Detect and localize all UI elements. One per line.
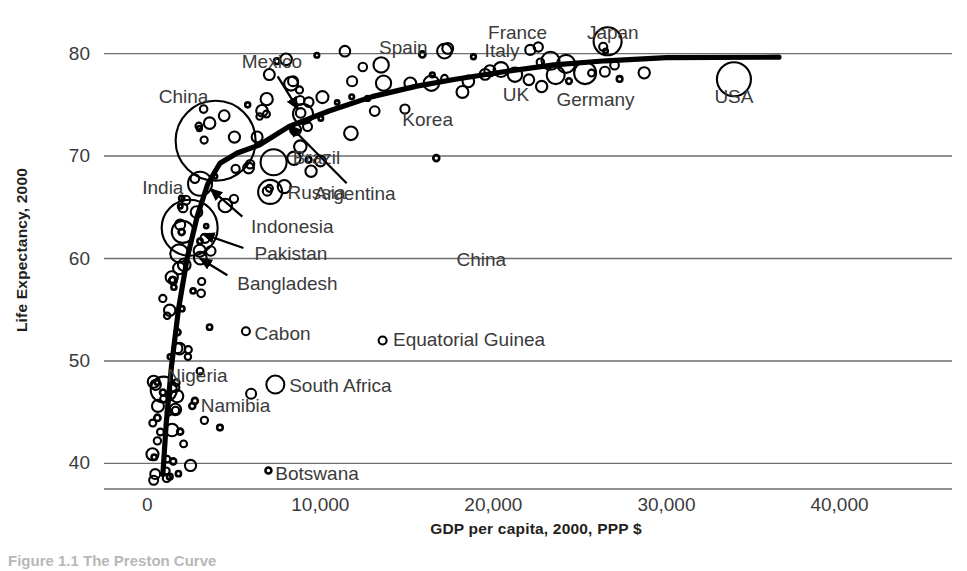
data-bubble	[219, 110, 230, 121]
data-bubble	[185, 354, 191, 360]
data-bubble	[349, 95, 354, 100]
data-bubble	[198, 278, 205, 285]
data-bubble	[176, 471, 181, 476]
data-bubble	[229, 131, 240, 142]
annotation-label: Germany	[556, 89, 635, 110]
data-bubble-cabon	[242, 327, 250, 335]
data-bubble	[340, 46, 351, 57]
data-bubble	[160, 390, 166, 396]
data-bubble	[335, 100, 339, 104]
data-bubble	[370, 106, 380, 116]
annotation-label: South Africa	[289, 375, 392, 396]
data-bubble	[150, 469, 160, 479]
data-bubble	[376, 76, 391, 91]
data-bubble	[252, 131, 263, 142]
data-bubble	[201, 136, 208, 143]
annotation-label: UK	[503, 84, 530, 105]
data-bubble	[185, 460, 196, 471]
data-bubble	[152, 455, 157, 460]
data-bubble	[159, 295, 166, 302]
data-bubble	[201, 417, 208, 424]
x-axis-title: GDP per capita, 2000, PPP $	[0, 520, 967, 538]
data-bubble	[191, 288, 196, 293]
annotation-label: Nigeria	[167, 365, 228, 386]
point-annotations: ChinaMexicoSpainFranceItalyJapanUKGerman…	[142, 22, 754, 484]
data-bubble	[315, 53, 320, 58]
data-bubble	[296, 108, 306, 118]
annotation-label: Cabon	[255, 323, 311, 344]
data-bubble	[232, 165, 240, 173]
data-bubble	[373, 57, 388, 72]
data-bubble	[154, 437, 161, 444]
data-bubble	[456, 86, 468, 98]
annotation-label: USA	[714, 86, 753, 107]
data-bubble	[197, 290, 205, 298]
data-bubble	[177, 429, 183, 435]
data-bubble	[344, 126, 358, 140]
annotation-label: Argentina	[314, 183, 396, 204]
annotation-label: Botswana	[275, 463, 359, 484]
data-bubble	[204, 224, 208, 228]
annotation-label: China	[456, 249, 506, 270]
data-bubble	[245, 102, 250, 107]
data-bubble	[566, 78, 572, 84]
annotation-label: Brazil	[293, 147, 341, 168]
data-bubble	[437, 44, 452, 59]
data-bubble-korea	[433, 155, 439, 161]
data-point-bubbles	[146, 27, 750, 484]
annotation-label: Pakistan	[255, 243, 328, 264]
annotation-label: Namibia	[201, 395, 271, 416]
x-tick-label: 10,000	[291, 494, 349, 516]
data-bubble	[296, 86, 303, 93]
data-bubble-equatorial-guinea	[379, 336, 387, 344]
data-bubble	[639, 67, 650, 78]
data-bubble	[471, 54, 476, 59]
annotation-label: Equatorial Guinea	[393, 329, 546, 350]
annotation-label: Japan	[587, 22, 639, 43]
data-bubble-brazil	[261, 149, 287, 175]
data-bubble	[316, 91, 328, 103]
data-bubble	[347, 76, 357, 86]
annotation-label: China	[159, 86, 209, 107]
data-bubble-botswana	[265, 468, 271, 474]
data-bubble	[178, 204, 182, 208]
data-bubble	[617, 76, 623, 82]
data-bubble	[170, 458, 176, 464]
annotation-label: Italy	[485, 40, 520, 61]
data-bubble	[588, 70, 595, 77]
x-axis-title-text: GDP per capita, 2000, PPP $	[430, 520, 642, 538]
data-bubble-south-africa	[266, 376, 284, 394]
preston-curve-figure: Life Expectancy, 2000 4050607080 ChinaMe…	[0, 0, 967, 571]
x-tick-label: 30,000	[637, 494, 695, 516]
data-bubble	[536, 81, 547, 92]
data-bubble	[149, 420, 156, 427]
annotation-arrow	[200, 259, 227, 276]
data-bubble	[600, 67, 610, 77]
data-bubble	[261, 93, 273, 105]
data-bubble	[359, 63, 368, 72]
annotation-label: Spain	[379, 37, 428, 58]
annotation-label: Mexico	[242, 51, 302, 72]
x-tick-label: 40,000	[810, 494, 868, 516]
scatter-plot-canvas: ChinaMexicoSpainFranceItalyJapanUKGerman…	[0, 0, 967, 571]
data-bubble	[192, 398, 198, 404]
figure-caption: Figure 1.1 The Preston Curve	[8, 552, 216, 569]
x-tick-label: 0	[142, 494, 153, 516]
data-bubble	[180, 441, 187, 448]
annotation-label: Korea	[402, 109, 453, 130]
annotation-label: India	[142, 177, 184, 198]
data-bubble	[217, 425, 223, 431]
data-bubble	[204, 117, 215, 128]
x-tick-label: 20,000	[464, 494, 522, 516]
data-bubble	[169, 277, 175, 283]
data-bubble	[207, 325, 212, 330]
data-bubble	[197, 239, 202, 244]
data-bubble	[157, 429, 164, 436]
annotation-label: Bangladesh	[237, 273, 337, 294]
annotation-label: Indonesia	[251, 216, 334, 237]
